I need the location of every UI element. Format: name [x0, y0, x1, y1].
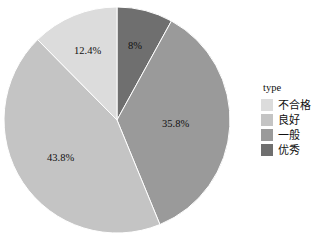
legend-item-yiban[interactable]: 一般: [261, 128, 317, 142]
legend-swatch-icon: [261, 99, 273, 111]
legend-item-label: 一般: [278, 129, 300, 141]
legend-swatch-icon: [261, 114, 273, 126]
legend-item-label: 良好: [278, 114, 300, 126]
legend-swatch-icon: [261, 144, 273, 156]
legend-title: type: [263, 82, 317, 94]
legend-item-buhege[interactable]: 不合格: [261, 98, 317, 112]
legend-item-lianghao[interactable]: 良好: [261, 113, 317, 127]
legend-item-label: 优秀: [278, 144, 300, 156]
slice-label-lianghao: 43.8%: [47, 152, 74, 163]
legend-item-label: 不合格: [278, 99, 311, 111]
legend-swatch-icon: [261, 129, 273, 141]
slice-label-buhege: 12.4%: [74, 45, 101, 56]
pie-chart-figure: 8% 35.8% 43.8% 12.4% type 不合格 良好 一般 优秀: [0, 0, 317, 245]
slice-label-yiban: 35.8%: [162, 118, 189, 129]
chart-legend: type 不合格 良好 一般 优秀: [261, 82, 317, 158]
legend-item-youxiu[interactable]: 优秀: [261, 143, 317, 157]
slice-label-youxiu: 8%: [128, 40, 142, 51]
